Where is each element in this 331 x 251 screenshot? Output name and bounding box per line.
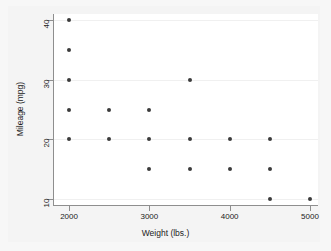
data-point: [268, 197, 272, 201]
data-point: [67, 108, 71, 112]
x-tick-mark-4000: [230, 206, 231, 211]
data-point: [147, 167, 151, 171]
gridline-y-20: [53, 139, 318, 140]
gridline-y-10: [53, 199, 318, 200]
scatter-plot-screenshot: 10203040 2000300040005000 Weight (lbs.) …: [0, 0, 331, 251]
data-point: [308, 197, 312, 201]
x-tick-mark-5000: [310, 206, 311, 211]
data-point: [67, 78, 71, 82]
y-axis-title: Mileage (mpg): [15, 49, 25, 169]
y-tick-label-30: 30: [42, 79, 51, 125]
data-point: [107, 108, 111, 112]
x-tick-label-2000: 2000: [60, 212, 78, 221]
data-point: [228, 137, 232, 141]
data-point: [268, 137, 272, 141]
data-point: [188, 78, 192, 82]
x-tick-mark-3000: [149, 206, 150, 211]
gridline-y-30: [53, 80, 318, 81]
data-point: [188, 167, 192, 171]
x-axis-title: Weight (lbs.): [0, 228, 331, 238]
y-axis-line: [53, 14, 54, 206]
data-point: [268, 167, 272, 171]
data-point: [188, 137, 192, 141]
data-point: [147, 108, 151, 112]
y-tick-label-40: 40: [42, 19, 51, 65]
data-point: [147, 137, 151, 141]
data-point: [67, 137, 71, 141]
x-tick-label-3000: 3000: [140, 212, 158, 221]
x-tick-label-4000: 4000: [221, 212, 239, 221]
data-point: [67, 18, 71, 22]
y-tick-label-20: 20: [42, 139, 51, 185]
data-point: [228, 167, 232, 171]
data-point: [67, 48, 71, 52]
x-tick-label-5000: 5000: [301, 212, 319, 221]
x-axis-line: [53, 205, 318, 206]
plot-area: [53, 14, 318, 205]
gridline-y-40: [53, 20, 318, 21]
data-point: [107, 137, 111, 141]
x-tick-mark-2000: [69, 206, 70, 211]
